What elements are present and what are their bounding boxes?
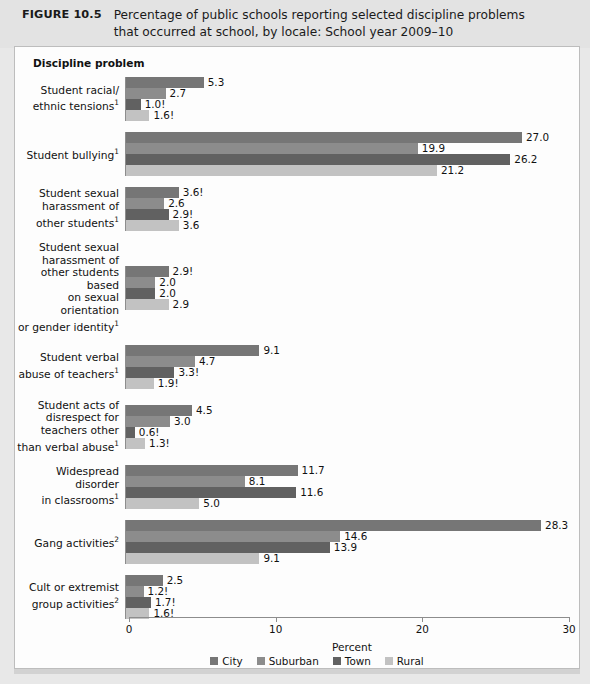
- x-axis-tick-label: 0: [126, 623, 133, 635]
- bar-value-label: 11.6: [300, 487, 323, 497]
- bar-town: [126, 209, 169, 220]
- figure-title: Percentage of public schools reporting s…: [114, 7, 544, 41]
- bar-row: 13.9: [126, 542, 581, 553]
- bar-value-label: 1.7!: [155, 597, 176, 607]
- bar-city: [126, 345, 259, 356]
- bar-row: 9.1: [126, 345, 581, 356]
- x-axis: 0102030: [125, 617, 581, 631]
- bar-value-label: 14.6: [344, 531, 367, 541]
- bar-value-label: 2.5: [167, 575, 184, 585]
- bar-value-label: 2.9!: [173, 266, 194, 276]
- panel-bottom-edge: [14, 668, 580, 674]
- bar-city: [126, 575, 163, 586]
- category-label: Student sexualharassment ofother student…: [15, 242, 125, 334]
- figure-title-line-2: that occurred at school, by locale: Scho…: [114, 25, 454, 39]
- bar-rural: [126, 378, 154, 389]
- category-label: Cult or extremistgroup activities2: [15, 582, 125, 611]
- bar-row: 1.7!: [126, 597, 581, 608]
- bar-value-label: 9.1: [263, 345, 280, 355]
- category-label: Student verbalabuse of teachers1: [15, 352, 125, 381]
- bar-row: 21.2: [126, 165, 581, 176]
- bar-value-label: 28.3: [545, 520, 568, 530]
- figure-title-line-1: Percentage of public schools reporting s…: [114, 8, 525, 22]
- bar-group-bars: 2.51.2!1.7!1.6!: [125, 575, 581, 619]
- bar-value-label: 21.2: [441, 165, 464, 175]
- bar-value-label: 27.0: [526, 132, 549, 142]
- bar-group-bars: 4.53.00.6!1.3!: [125, 405, 581, 449]
- category-label: Student acts ofdisrespect forteachers ot…: [15, 400, 125, 454]
- legend-swatch-icon: [210, 657, 218, 665]
- bar-value-label: 8.1: [249, 476, 266, 486]
- bar-group-bars: 9.14.73.3!1.9!: [125, 345, 581, 389]
- bar-row: 5.0: [126, 498, 581, 509]
- bar-row: 11.6: [126, 487, 581, 498]
- bar-row: 1.6!: [126, 110, 581, 121]
- x-axis-tick-label: 10: [269, 623, 282, 635]
- bar-city: [126, 77, 204, 88]
- bar-row: 1.3!: [126, 438, 581, 449]
- bar-city: [126, 132, 522, 143]
- bar-row: 2.0: [126, 277, 581, 288]
- bar-value-label: 3.6: [183, 220, 200, 230]
- bar-town: [126, 427, 135, 438]
- bar-city: [126, 465, 298, 476]
- bar-row: 3.6!: [126, 187, 581, 198]
- bar-suburban: [126, 143, 418, 154]
- bar-rural: [126, 553, 259, 564]
- bar-group: Student sexualharassment ofother student…: [15, 242, 581, 334]
- legend-item-town[interactable]: Town: [333, 655, 371, 667]
- bar-value-label: 1.9!: [158, 378, 179, 388]
- x-axis-tick-label: 20: [416, 623, 429, 635]
- bar-value-label: 3.6!: [183, 187, 204, 197]
- figure-header: FIGURE 10.5 Percentage of public schools…: [0, 0, 590, 48]
- bar-value-label: 9.1: [263, 553, 280, 563]
- bar-row: 9.1: [126, 553, 581, 564]
- bar-row: 4.5: [126, 405, 581, 416]
- bar-town: [126, 487, 296, 498]
- bar-city: [126, 520, 541, 531]
- bar-group: Student racial/ethnic tensions15.32.71.0…: [15, 77, 581, 121]
- bar-suburban: [126, 531, 340, 542]
- bar-rural: [126, 299, 169, 310]
- bar-group-bars: 5.32.71.0!1.6!: [125, 77, 581, 121]
- bar-rural: [126, 438, 145, 449]
- x-axis-label-wrap: Percent: [15, 641, 579, 653]
- bar-group-bars: 27.019.926.221.2: [125, 132, 581, 176]
- bar-value-label: 4.5: [196, 405, 213, 415]
- bar-group: Gang activities228.314.613.99.1: [15, 520, 581, 564]
- bar-value-label: 2.9!: [173, 209, 194, 219]
- bar-value-label: 26.2: [514, 154, 537, 164]
- x-axis-tick: [129, 617, 130, 622]
- bar-town: [126, 288, 155, 299]
- bar-group: Cult or extremistgroup activities22.51.2…: [15, 575, 581, 619]
- bar-row: 1.0!: [126, 99, 581, 110]
- plot-area: Student racial/ethnic tensions15.32.71.0…: [15, 77, 581, 617]
- category-label: Student bullying1: [15, 146, 125, 162]
- bar-value-label: 2.7: [170, 88, 187, 98]
- bar-suburban: [126, 277, 155, 288]
- bar-group: Student acts ofdisrespect forteachers ot…: [15, 400, 581, 454]
- x-axis-tick: [276, 617, 277, 622]
- y-axis-title: Discipline problem: [33, 57, 144, 69]
- legend-label: Rural: [397, 655, 424, 667]
- bar-group-bars: 3.6!2.62.9!3.6: [125, 187, 581, 231]
- bar-row: 3.0: [126, 416, 581, 427]
- bar-value-label: 5.3: [208, 77, 225, 87]
- bar-row: 3.6: [126, 220, 581, 231]
- bar-value-label: 2.0: [159, 288, 176, 298]
- bar-group: Student sexualharassment ofother student…: [15, 187, 581, 231]
- bar-row: 28.3: [126, 520, 581, 531]
- legend-label: City: [222, 655, 242, 667]
- bar-row: 2.5: [126, 575, 581, 586]
- legend-item-city[interactable]: City: [210, 655, 242, 667]
- category-label: Student sexualharassment ofother student…: [15, 188, 125, 229]
- bar-row: 11.7: [126, 465, 581, 476]
- x-axis-tick: [569, 617, 570, 622]
- legend-item-rural[interactable]: Rural: [385, 655, 424, 667]
- bar-row: 0.6!: [126, 427, 581, 438]
- bar-suburban: [126, 198, 164, 209]
- bar-value-label: 13.9: [334, 542, 357, 552]
- bar-rural: [126, 110, 149, 121]
- legend-item-suburban[interactable]: Suburban: [257, 655, 319, 667]
- bar-row: 14.6: [126, 531, 581, 542]
